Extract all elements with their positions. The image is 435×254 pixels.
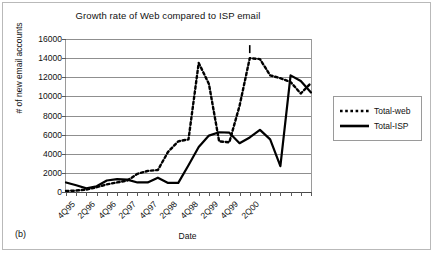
x-tick-mark bbox=[168, 192, 169, 196]
legend-item-total-isp: Total-ISP bbox=[339, 118, 416, 133]
x-tick-mark bbox=[199, 192, 200, 196]
series-line-total-web bbox=[66, 58, 311, 191]
x-tick-label: 2Q97 bbox=[117, 199, 139, 221]
x-tick-mark bbox=[97, 192, 98, 196]
x-tick-label: 4Q98 bbox=[178, 199, 200, 221]
y-axis-label: # of new email accounts bbox=[14, 3, 24, 133]
y-tick-label: 16000 bbox=[38, 34, 62, 44]
y-tick-label: 12000 bbox=[38, 72, 62, 82]
series-group bbox=[66, 39, 311, 192]
x-tick-mark bbox=[189, 192, 190, 196]
legend-label-total-web: Total-web bbox=[374, 106, 410, 116]
x-tick-mark bbox=[240, 192, 241, 196]
x-tick-mark bbox=[219, 192, 220, 196]
x-tick-mark bbox=[229, 192, 230, 196]
x-tick-label: 2Q99 bbox=[198, 199, 220, 221]
x-tick-mark bbox=[76, 192, 77, 196]
x-tick-mark bbox=[158, 192, 159, 196]
x-tick-mark bbox=[209, 192, 210, 196]
x-tick-mark bbox=[137, 192, 138, 196]
y-tick-label: 10000 bbox=[38, 91, 62, 101]
x-tick-mark bbox=[127, 192, 128, 196]
chart-legend: Total-web Total-ISP bbox=[333, 96, 422, 141]
solid-line-icon bbox=[339, 121, 370, 131]
x-tick-mark bbox=[148, 192, 149, 196]
y-tick-label: 14000 bbox=[38, 53, 62, 63]
x-tick-mark bbox=[280, 192, 281, 196]
x-tick-mark bbox=[260, 192, 261, 196]
y-tick-label: 4000 bbox=[43, 149, 62, 159]
y-tick-label: 6000 bbox=[43, 130, 62, 140]
x-tick-mark bbox=[250, 192, 251, 196]
chart-title: Growth rate of Web compared to ISP email bbox=[3, 10, 333, 21]
x-tick-mark bbox=[270, 192, 271, 196]
y-tick-label: 2000 bbox=[43, 168, 62, 178]
x-tick-label: 4Q96 bbox=[96, 199, 118, 221]
plot-area: 0200040006000800010000120001400016000 4Q… bbox=[65, 39, 312, 192]
x-tick-mark bbox=[86, 192, 87, 196]
figure-caption: (b) bbox=[15, 229, 26, 239]
y-tick-label: 0 bbox=[57, 187, 62, 197]
y-tick-label: 8000 bbox=[43, 111, 62, 121]
x-tick-label: 4Q99 bbox=[219, 199, 241, 221]
x-tick-label: 2Q96 bbox=[76, 199, 98, 221]
x-tick-mark bbox=[178, 192, 179, 196]
x-tick-label: 4Q97 bbox=[137, 199, 159, 221]
legend-item-total-web: Total-web bbox=[339, 103, 416, 118]
x-tick-label: 2Q98 bbox=[157, 199, 179, 221]
x-axis-label: Date bbox=[65, 231, 310, 241]
x-tick-mark bbox=[66, 192, 67, 196]
dotted-line-icon bbox=[339, 106, 370, 116]
x-tick-mark bbox=[117, 192, 118, 196]
legend-label-total-isp: Total-ISP bbox=[374, 121, 409, 131]
x-tick-mark bbox=[291, 192, 292, 196]
x-tick-label: 4Q95 bbox=[55, 199, 77, 221]
figure-panel: Growth rate of Web compared to ISP email… bbox=[2, 2, 431, 250]
x-tick-mark bbox=[301, 192, 302, 196]
x-tick-mark bbox=[107, 192, 108, 196]
x-tick-label: 2Q00 bbox=[239, 199, 261, 221]
x-tick-mark bbox=[311, 192, 312, 196]
